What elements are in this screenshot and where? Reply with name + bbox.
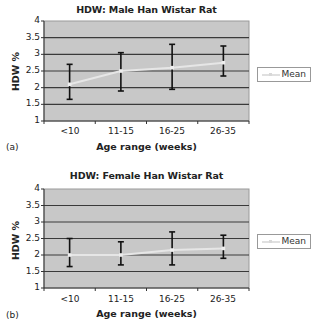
y-tick: 1.5 bbox=[10, 266, 40, 276]
x-tick: 16-25 bbox=[147, 294, 197, 304]
x-tick: 26-35 bbox=[198, 294, 248, 304]
x-tick: 11-15 bbox=[96, 126, 146, 136]
y-tick: 2 bbox=[10, 249, 40, 259]
y-tick: 1 bbox=[10, 115, 40, 125]
y-tick: 3 bbox=[10, 48, 40, 58]
x-tick: 11-15 bbox=[96, 294, 146, 304]
legend: Mean bbox=[257, 67, 311, 82]
y-tick: 3.5 bbox=[10, 200, 40, 210]
legend-label: Mean bbox=[281, 69, 306, 79]
x-tick: <10 bbox=[45, 126, 95, 136]
y-tick: 2 bbox=[10, 82, 40, 92]
x-tick: <10 bbox=[45, 294, 95, 304]
panel-label: (a) bbox=[6, 142, 19, 152]
x-axis-label: Age range (weeks) bbox=[44, 308, 249, 319]
chart-panel-male: HDW: Male Han Wistar Rat HDW % 4 3.5 3 2… bbox=[0, 0, 314, 163]
y-tick: 1.5 bbox=[10, 98, 40, 108]
x-axis-label: Age range (weeks) bbox=[44, 141, 249, 152]
y-tick: 4 bbox=[10, 15, 40, 25]
y-tick: 4 bbox=[10, 183, 40, 193]
legend: Mean bbox=[257, 234, 311, 249]
y-tick: 2.5 bbox=[10, 65, 40, 75]
chart-panel-female: HDW: Female Han Wistar Rat HDW % 4 3.5 3… bbox=[0, 165, 314, 326]
x-tick: 26-35 bbox=[198, 126, 248, 136]
y-tick: 1 bbox=[10, 282, 40, 292]
y-tick: 2.5 bbox=[10, 233, 40, 243]
legend-marker-icon bbox=[269, 240, 272, 243]
panel-label: (b) bbox=[6, 310, 19, 320]
x-tick: 16-25 bbox=[147, 126, 197, 136]
legend-marker-icon bbox=[269, 73, 272, 76]
legend-label: Mean bbox=[281, 236, 306, 246]
y-tick: 3.5 bbox=[10, 32, 40, 42]
y-tick: 3 bbox=[10, 216, 40, 226]
